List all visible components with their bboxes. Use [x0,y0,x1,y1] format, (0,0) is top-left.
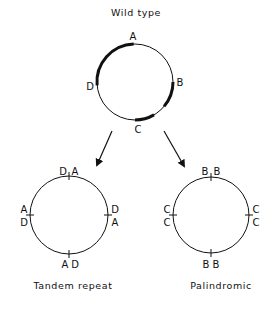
label-d: D [86,81,94,92]
plasmid-diagram: Wild type A B C D D A D A A D A D Tandem… [0,0,274,309]
arrow-to-tandem [97,131,112,165]
palindromic-circle [173,177,249,253]
label-right-2: C [253,217,260,228]
label-left-2: D [20,217,28,228]
tandem-caption: Tandem repeat [33,280,113,291]
label-top-1: D [59,166,67,177]
label-left-1: A [21,204,28,215]
label-b: B [177,77,184,88]
label-right-1: D [111,204,119,215]
label-bottom-2: D [71,259,79,270]
label-a: A [130,31,137,42]
wild-type-title: Wild type [111,7,161,18]
label-right-2: A [112,217,119,228]
arrow-to-palindromic [164,131,184,166]
label-bottom-1: A [62,259,69,270]
label-c: C [135,124,142,135]
segment-c [135,115,154,120]
label-left-1: C [164,204,171,215]
wild-type-plasmid: Wild type A B C D [86,7,183,135]
palindromic-caption: Palindromic [190,280,252,291]
label-top-2: A [72,166,79,177]
palindromic-plasmid: B B C C B B C C Palindromic [164,166,260,291]
segment-a-d [97,44,134,85]
segment-b [164,82,173,106]
tandem-repeat-plasmid: D A D A A D A D Tandem repeat [20,166,119,291]
label-top-2: B [214,166,221,177]
label-right-1: C [253,204,260,215]
label-bottom-2: B [213,259,220,270]
label-top-1: B [202,166,209,177]
tandem-circle [30,176,108,254]
label-left-2: C [164,217,171,228]
label-bottom-1: B [203,259,210,270]
